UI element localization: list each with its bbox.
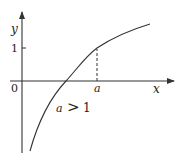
x-tick-label: a xyxy=(94,82,101,95)
origin-label: 0 xyxy=(11,82,18,95)
x-axis-label: x xyxy=(153,82,160,96)
y-axis-label: y xyxy=(10,22,18,36)
annotation-rel: > xyxy=(67,98,80,116)
y-tick-label: 1 xyxy=(11,42,18,55)
log-graph-figure: y 1 0 a x a > 1 xyxy=(0,0,180,158)
annotation-val: 1 xyxy=(83,101,91,115)
log-curve xyxy=(30,24,150,151)
annotation-var: a xyxy=(56,102,63,115)
